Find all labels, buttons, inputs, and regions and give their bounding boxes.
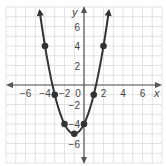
data-point-marker: [100, 43, 107, 50]
x-tick-label: 0: [75, 88, 81, 99]
y-axis-label: y: [71, 6, 79, 18]
data-point-marker: [42, 43, 49, 50]
axes: [6, 6, 162, 164]
y-tick-label: −4: [69, 119, 81, 130]
x-tick-label: −6: [20, 88, 32, 99]
y-tick-label: −2: [69, 100, 81, 111]
data-point-marker: [81, 121, 88, 128]
x-tick-label: 2: [101, 88, 107, 99]
coordinate-plane: −6−4−20246−6−4−2246 x y: [0, 0, 166, 166]
curve-arrow-left-icon: [37, 9, 44, 16]
x-tick-label: 4: [120, 88, 126, 99]
x-tick-label: 6: [140, 88, 146, 99]
x-tick-label: −4: [39, 88, 51, 99]
x-tick-label: −2: [59, 88, 71, 99]
curve-arrow-right-icon: [105, 9, 112, 16]
y-tick-label: 6: [74, 22, 80, 33]
y-tick-label: 4: [74, 41, 80, 52]
y-tick-label: 2: [74, 61, 80, 72]
data-point-marker: [71, 130, 78, 137]
data-point-marker: [51, 91, 58, 98]
x-axis-arrow-left-icon: [6, 82, 13, 88]
data-point-marker: [90, 91, 97, 98]
y-tick-label: −6: [69, 139, 81, 150]
data-point-marker: [61, 121, 68, 128]
x-axis-label: x: [153, 87, 160, 99]
